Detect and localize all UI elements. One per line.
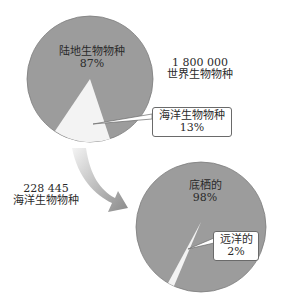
marine-species-pct: 13%: [156, 122, 228, 134]
pelagic-callout: 远洋的 2%: [213, 231, 259, 261]
land-species-pct: 87%: [52, 58, 132, 70]
top-pie-main-label-group: 陆地生物物种 87%: [52, 46, 132, 70]
world-species-caption: 世界生物物种: [160, 69, 240, 81]
marine-species-callout: 海洋生物物种 13%: [152, 107, 232, 137]
pelagic-pct: 2%: [217, 246, 255, 258]
top-pie-chart: [27, 16, 153, 142]
marine-species-total: 228 445 海洋生物物种: [10, 183, 82, 207]
benthic-pct: 98%: [180, 192, 230, 204]
bottom-pie-main-label-group: 底栖的 98%: [180, 180, 230, 204]
world-species-total: 1 800 000 世界生物物种: [160, 57, 240, 81]
marine-species-caption: 海洋生物物种: [10, 195, 82, 207]
